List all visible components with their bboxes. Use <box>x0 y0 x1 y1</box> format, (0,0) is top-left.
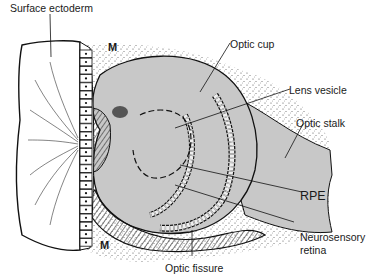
label-rpe: RPE <box>300 190 326 202</box>
label-optic-stalk: Optic stalk <box>296 117 345 129</box>
diagram-canvas: Surface ectoderm M M Optic cup Lens vesi… <box>0 0 375 278</box>
label-neurosensory-retina-line1: Neurosensory <box>300 231 365 243</box>
label-surface-ectoderm: Surface ectoderm <box>10 2 93 14</box>
ectoderm-cells <box>80 50 92 246</box>
label-mesenchyme-top: M <box>108 41 117 53</box>
lens-pit <box>112 106 128 118</box>
label-mesenchyme-bottom: M <box>100 239 109 251</box>
label-lens-vesicle: Lens vesicle <box>289 84 347 96</box>
label-optic-fissure: Optic fissure <box>165 262 223 274</box>
label-optic-cup: Optic cup <box>230 38 274 50</box>
label-neurosensory-retina-line2: retina <box>300 244 326 256</box>
